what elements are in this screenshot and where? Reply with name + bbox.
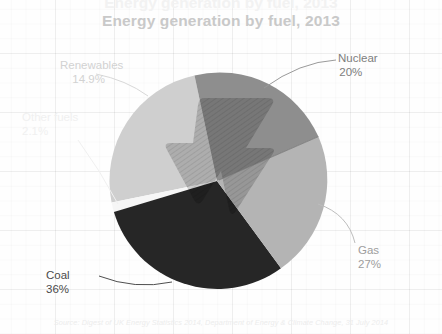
leader-line-gas	[318, 204, 355, 243]
slice-label-nuclear-name: Nuclear	[338, 52, 378, 64]
slice-label-gas-name: Gas	[358, 244, 379, 256]
slice-label-other-fuels-pct: 2.1%	[22, 124, 78, 138]
chart-canvas: Energy generation by fuel, 2013 Energy g…	[0, 0, 442, 334]
slice-label-nuclear: Nuclear 20%	[338, 51, 378, 79]
source-note: Source: Digest of UK Energy Statistics 2…	[0, 318, 442, 327]
slice-label-renewables-name: Renewables	[60, 59, 123, 71]
leader-line-nuclear	[264, 60, 336, 88]
slice-label-coal-name: Coal	[46, 269, 70, 281]
leader-line-coal	[99, 276, 172, 285]
slice-label-other-fuels-name: Other fuels	[22, 111, 78, 123]
slice-label-renewables: Renewables 14.9%	[60, 58, 123, 86]
slice-label-renewables-pct: 14.9%	[60, 72, 123, 86]
slice-label-gas: Gas 27%	[358, 243, 381, 271]
slice-label-gas-pct: 27%	[358, 257, 381, 271]
slice-label-other-fuels: Other fuels 2.1%	[22, 110, 78, 138]
slice-label-coal: Coal 36%	[46, 268, 70, 296]
slice-label-coal-pct: 36%	[46, 282, 70, 296]
slice-label-nuclear-pct: 20%	[338, 65, 378, 79]
